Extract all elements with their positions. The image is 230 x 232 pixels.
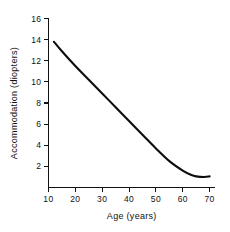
x-axis-title: Age (years) xyxy=(107,211,157,221)
x-tick-label: 30 xyxy=(97,194,107,204)
accommodation-vs-age-chart: 24681012141610203040506070Age (years)Acc… xyxy=(0,0,230,232)
y-tick-label: 12 xyxy=(31,56,41,66)
x-tick-label: 10 xyxy=(43,194,53,204)
x-tick-label: 70 xyxy=(204,194,214,204)
x-tick-label: 60 xyxy=(178,194,188,204)
y-tick-label: 8 xyxy=(36,98,41,108)
y-tick-label: 14 xyxy=(31,35,41,45)
chart-plot-area: 24681012141610203040506070Age (years)Acc… xyxy=(0,0,230,232)
x-tick-label: 20 xyxy=(70,194,80,204)
accommodation-curve xyxy=(54,42,210,177)
y-tick-label: 16 xyxy=(31,14,41,24)
y-tick-label: 4 xyxy=(36,140,41,150)
y-axis-title: Accommodation (diopters) xyxy=(9,47,19,159)
x-tick-label: 50 xyxy=(151,194,161,204)
y-tick-label: 2 xyxy=(36,161,41,171)
y-tick-label: 6 xyxy=(36,119,41,129)
x-tick-label: 40 xyxy=(124,194,134,204)
y-tick-label: 10 xyxy=(31,77,41,87)
